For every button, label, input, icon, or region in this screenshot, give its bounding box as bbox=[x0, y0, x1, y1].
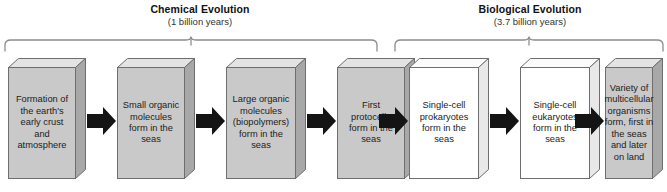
phase-title-chemical-evolution: Chemical Evolution bbox=[100, 4, 300, 16]
phase-title-biological-evolution: Biological Evolution bbox=[430, 4, 630, 16]
process-step-front-1: Formation of the earth's early crust and… bbox=[8, 67, 76, 179]
process-step-label-5: Single-cell prokaryotes form in the seas bbox=[410, 100, 478, 146]
flow-arrow-5 bbox=[490, 106, 520, 136]
process-step-front-7: Variety of multicellular organisms form,… bbox=[605, 67, 653, 179]
process-step-box-7[interactable]: Variety of multicellular organisms form,… bbox=[605, 58, 663, 180]
flow-arrow-3 bbox=[307, 106, 337, 136]
brace-biological-evolution bbox=[394, 36, 664, 52]
phase-duration-chemical-evolution: (1 billion years) bbox=[100, 17, 300, 28]
process-step-box-2[interactable]: Small organic molecules form in the seas bbox=[117, 58, 195, 180]
process-flow: Formation of the earth's early crust and… bbox=[0, 58, 667, 184]
diagram-canvas: Chemical Evolution (1 billion years) Bio… bbox=[0, 0, 667, 192]
flow-arrow-4 bbox=[379, 106, 409, 136]
flow-arrow-2 bbox=[196, 106, 226, 136]
phase-duration-biological-evolution: (3.7 billion years) bbox=[430, 17, 630, 28]
process-step-front-3: Large organic molecules (biopolymers) fo… bbox=[226, 67, 296, 179]
flow-arrow-1 bbox=[87, 106, 117, 136]
process-step-label-3: Large organic molecules (biopolymers) fo… bbox=[227, 94, 295, 151]
process-step-label-7: Variety of multicellular organisms form,… bbox=[601, 83, 656, 163]
brace-chemical-evolution bbox=[4, 36, 379, 52]
process-step-box-5[interactable]: Single-cell prokaryotes form in the seas bbox=[409, 58, 489, 180]
process-step-label-1: Formation of the earth's early crust and… bbox=[9, 94, 75, 151]
process-step-front-2: Small organic molecules form in the seas bbox=[117, 67, 185, 179]
process-step-label-2: Small organic molecules form in the seas bbox=[118, 100, 184, 146]
process-step-front-5: Single-cell prokaryotes form in the seas bbox=[409, 67, 479, 179]
phase-header-biological-evolution: Biological Evolution (3.7 billion years) bbox=[430, 4, 630, 27]
process-step-box-3[interactable]: Large organic molecules (biopolymers) fo… bbox=[226, 58, 306, 180]
process-step-box-1[interactable]: Formation of the earth's early crust and… bbox=[8, 58, 86, 180]
phase-header-chemical-evolution: Chemical Evolution (1 billion years) bbox=[100, 4, 300, 27]
